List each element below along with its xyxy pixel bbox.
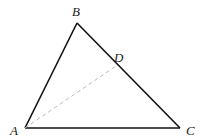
label-b: B — [72, 5, 80, 18]
segment-ad-dashed — [25, 66, 116, 128]
label-c: C — [186, 124, 195, 137]
segment-bc — [77, 23, 180, 128]
label-d: D — [114, 51, 123, 64]
triangle-diagram: B D A C — [0, 0, 205, 139]
triangle-svg — [0, 0, 205, 139]
label-a: A — [10, 124, 18, 137]
segment-ab — [25, 23, 77, 128]
